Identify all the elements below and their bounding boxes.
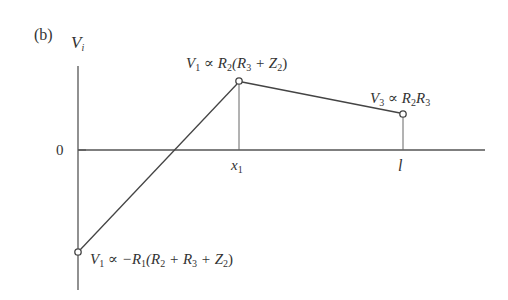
start-annotation: V1 ∝ −R1(R2 + R3 + Z2): [90, 252, 233, 269]
start-point: [75, 249, 81, 255]
zero-label: 0: [56, 143, 64, 158]
x1-tick-label: x1: [231, 158, 243, 175]
end-point: [400, 111, 406, 117]
voltage-line-rising: [80, 84, 237, 250]
peak-point: [236, 78, 242, 84]
panel-label: (b): [34, 27, 53, 43]
end-annotation: V3 ∝ R2R3: [370, 91, 430, 108]
l-tick-label: l: [398, 158, 402, 174]
peak-annotation: V1 ∝ R2(R3 + Z2): [186, 56, 287, 73]
y-axis-label: Vi: [71, 34, 84, 53]
